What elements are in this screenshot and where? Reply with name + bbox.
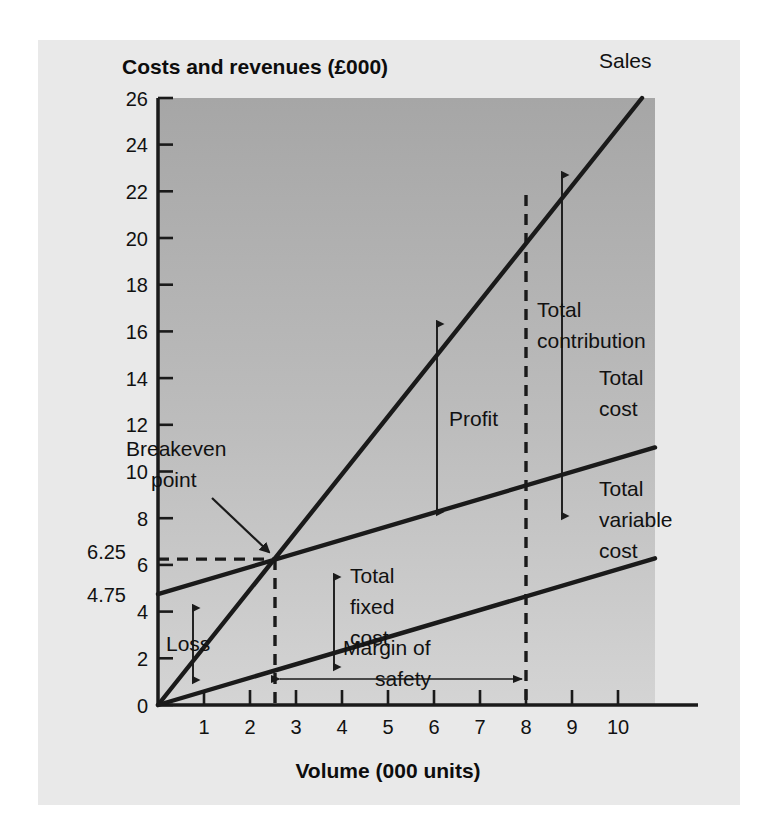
- y-tick-label-10: 10: [126, 461, 148, 483]
- x-axis-title: Volume (000 units): [295, 759, 480, 782]
- margin-of-safety-label-line1: Margin of: [343, 636, 431, 659]
- breakeven-point-label-line1: Breakeven: [126, 437, 226, 460]
- y-tick-label-18: 18: [126, 274, 148, 296]
- y-tick-label-6: 6: [137, 554, 148, 576]
- y-tick-label-24: 24: [126, 134, 148, 156]
- figure-root: Costs and revenues (£000) 0: [0, 0, 767, 835]
- x-tick-label-1: 1: [198, 716, 209, 738]
- total-variable-cost-label-line3: cost: [599, 539, 638, 562]
- x-axis-tick-labels: 1 2 3 4 5 6 7 8 9 10: [198, 716, 629, 738]
- y-tick-label-26: 26: [126, 88, 148, 110]
- total-cost-label-line1: Total: [599, 366, 643, 389]
- y-tick-label-14: 14: [126, 368, 148, 390]
- breakeven-chart: Costs and revenues (£000) 0: [38, 40, 740, 805]
- x-tick-label-2: 2: [244, 716, 255, 738]
- x-tick-label-10: 10: [607, 716, 629, 738]
- breakeven-point-label-line2: point: [151, 468, 197, 491]
- y-tick-label-16: 16: [126, 321, 148, 343]
- x-tick-label-5: 5: [382, 716, 393, 738]
- sales-label: Sales: [599, 49, 652, 72]
- y-tick-label-12: 12: [126, 414, 148, 436]
- total-contribution-label-line2: contribution: [537, 329, 646, 352]
- y-tick-label-20: 20: [126, 228, 148, 250]
- x-tick-label-3: 3: [290, 716, 301, 738]
- x-tick-label-8: 8: [520, 716, 531, 738]
- total-fixed-cost-label-line2: fixed: [350, 595, 394, 618]
- y-tick-label-0: 0: [137, 695, 148, 717]
- x-tick-label-4: 4: [336, 716, 347, 738]
- total-fixed-cost-label-line1: Total: [350, 564, 394, 587]
- y-tick-label-fixed-cost-value: 4.75: [87, 584, 126, 606]
- y-tick-label-22: 22: [126, 181, 148, 203]
- x-tick-label-9: 9: [566, 716, 577, 738]
- y-axis-title: Costs and revenues (£000): [122, 55, 388, 78]
- x-tick-label-6: 6: [428, 716, 439, 738]
- loss-label: Loss: [166, 632, 210, 655]
- y-axis-tick-labels: 0 2 4 6 8 10 12 14 16 18 20 22 24 26: [126, 88, 148, 717]
- total-contribution-label-line1: Total: [537, 298, 581, 321]
- y-tick-label-8: 8: [137, 508, 148, 530]
- total-variable-cost-label-line2: variable: [599, 508, 673, 531]
- total-variable-cost-label-line1: Total: [599, 477, 643, 500]
- figure-panel: Costs and revenues (£000) 0: [38, 40, 740, 805]
- y-tick-label-breakeven-value: 6.25: [87, 541, 126, 563]
- y-tick-label-4: 4: [137, 601, 148, 623]
- total-cost-label-line2: cost: [599, 397, 638, 420]
- margin-of-safety-label-line2: safety: [375, 667, 432, 690]
- x-tick-label-7: 7: [474, 716, 485, 738]
- y-tick-label-2: 2: [137, 648, 148, 670]
- profit-label: Profit: [449, 407, 498, 430]
